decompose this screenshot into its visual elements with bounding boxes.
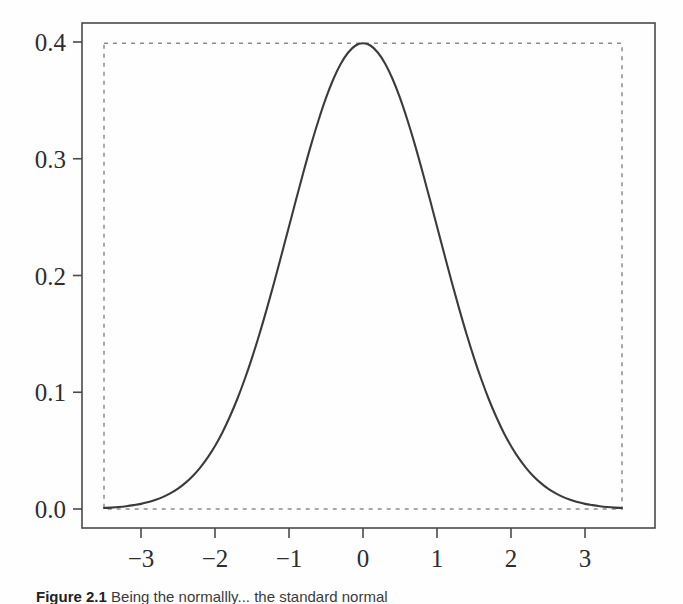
plot-frame: [82, 23, 655, 528]
y-tick-label: 0.4: [35, 29, 67, 56]
y-tick-label: 0.0: [35, 496, 66, 523]
density-curve: [104, 43, 622, 508]
x-tick-label: −1: [276, 545, 303, 572]
y-tick-label: 0.2: [35, 263, 66, 290]
figure-caption: Figure 2.1 Being the normallly... the st…: [0, 588, 683, 604]
x-axis-tick-labels: −3−2−10123: [128, 545, 592, 572]
x-axis-ticks: [141, 528, 585, 538]
dashed-reference-rectangle: [104, 43, 622, 509]
x-tick-label: 0: [357, 545, 370, 572]
x-tick-label: 1: [431, 545, 444, 572]
x-tick-label: 3: [579, 545, 592, 572]
x-tick-label: −2: [202, 545, 229, 572]
y-tick-label: 0.3: [35, 146, 66, 173]
y-axis-ticks: [73, 42, 82, 509]
figure-container: 0.00.10.20.30.4 −3−2−10123 Figure 2.1 Be…: [0, 0, 683, 604]
figure-caption-label: Figure 2.1: [36, 588, 107, 604]
y-axis-tick-labels: 0.00.10.20.30.4: [35, 29, 67, 523]
x-tick-label: 2: [505, 545, 518, 572]
y-tick-label: 0.1: [35, 379, 66, 406]
normal-distribution-plot: 0.00.10.20.30.4 −3−2−10123: [0, 0, 683, 604]
figure-caption-text: Figure 2.1 Being the normallly... the st…: [36, 588, 388, 604]
figure-caption-body: Being the normallly... the standard norm…: [111, 588, 388, 604]
x-tick-label: −3: [128, 545, 155, 572]
